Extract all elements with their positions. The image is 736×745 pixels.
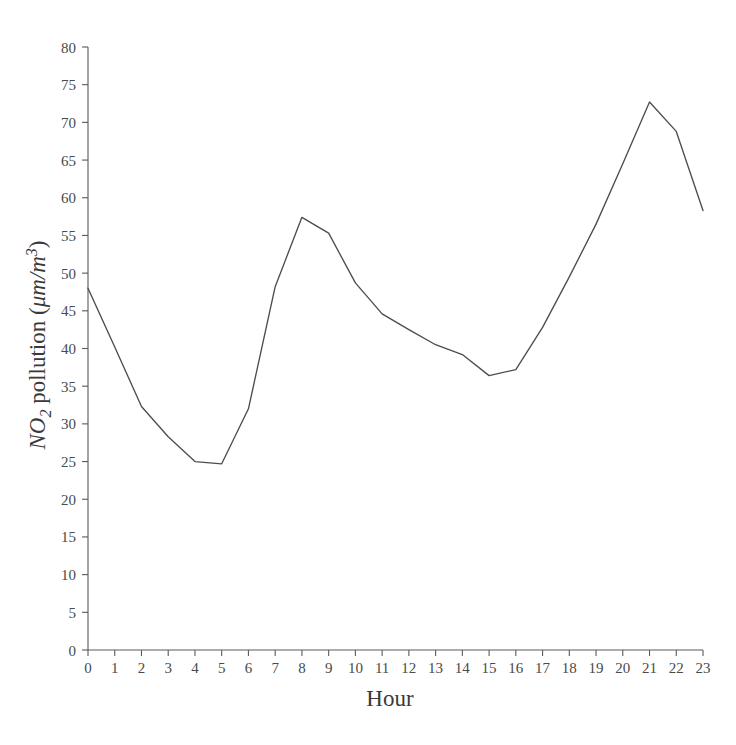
x-axis-tick-label: 23 <box>696 660 711 676</box>
y-axis-title-units: μm/m <box>25 256 50 308</box>
x-axis-tick-label: 5 <box>218 660 226 676</box>
y-axis-tick-label: 30 <box>61 416 76 432</box>
y-axis-tick-label: 0 <box>69 643 77 659</box>
y-axis-tick-label: 60 <box>61 190 76 206</box>
y-axis-title-exponent: 3 <box>23 248 40 257</box>
x-axis-title: Hour <box>366 686 414 711</box>
y-axis-tick-label: 70 <box>61 115 76 131</box>
y-axis-title-species: NO <box>25 417 50 450</box>
y-axis-tick-label: 5 <box>69 605 77 621</box>
x-axis-tick-label: 19 <box>589 660 604 676</box>
y-axis-tick-label: 10 <box>61 567 76 583</box>
chart-figure: 05101520253035404550556065707580 0123456… <box>0 0 736 745</box>
y-axis-tick-label: 35 <box>61 379 76 395</box>
x-axis-tick-label: 13 <box>428 660 443 676</box>
x-axis: 01234567891011121314151617181920212223 <box>84 650 710 676</box>
x-axis-tick-label: 12 <box>401 660 416 676</box>
y-axis-tick-label: 20 <box>61 492 76 508</box>
y-axis-tick-label: 80 <box>61 40 76 56</box>
x-axis-tick-label: 1 <box>111 660 119 676</box>
x-axis-tick-label: 21 <box>642 660 657 676</box>
x-axis-tick-label: 10 <box>348 660 363 676</box>
x-axis-tick-label: 15 <box>482 660 497 676</box>
x-axis-tick-label: 4 <box>191 660 199 676</box>
y-axis-title: NO2 pollution (μm/m3) <box>23 240 54 450</box>
y-axis-tick-label: 40 <box>61 341 76 357</box>
y-axis-tick-label: 65 <box>61 153 76 169</box>
x-axis-tick-label: 16 <box>508 660 524 676</box>
y-axis-title-subscript: 2 <box>37 410 54 418</box>
x-axis-tick-label: 0 <box>84 660 92 676</box>
x-axis-tick-label: 14 <box>455 660 471 676</box>
svg-text:NO2 pollution (μm/m3): NO2 pollution (μm/m3) <box>23 240 54 450</box>
y-axis-tick-label: 55 <box>61 228 76 244</box>
x-axis-tick-label: 9 <box>325 660 333 676</box>
data-line-no2-pollution <box>88 102 703 464</box>
y-axis-title-close: ) <box>25 240 50 248</box>
x-axis-tick-label: 17 <box>535 660 551 676</box>
y-axis: 05101520253035404550556065707580 <box>61 40 88 659</box>
x-axis-tick-label: 3 <box>164 660 172 676</box>
y-axis-title-rest: pollution ( <box>25 307 50 409</box>
x-axis-tick-label: 6 <box>245 660 253 676</box>
y-axis-tick-label: 15 <box>61 529 76 545</box>
data-series-group <box>88 102 703 464</box>
line-chart-svg: 05101520253035404550556065707580 0123456… <box>0 0 736 745</box>
y-axis-tick-label: 75 <box>61 77 76 93</box>
x-axis-tick-label: 20 <box>615 660 630 676</box>
x-axis-tick-label: 18 <box>562 660 577 676</box>
x-axis-tick-label: 7 <box>271 660 279 676</box>
x-axis-tick-label: 11 <box>375 660 389 676</box>
x-axis-tick-label: 2 <box>138 660 146 676</box>
y-axis-tick-label: 50 <box>61 266 76 282</box>
y-axis-tick-label: 45 <box>61 303 76 319</box>
y-axis-tick-label: 25 <box>61 454 76 470</box>
x-axis-tick-label: 8 <box>298 660 306 676</box>
x-axis-tick-label: 22 <box>669 660 684 676</box>
